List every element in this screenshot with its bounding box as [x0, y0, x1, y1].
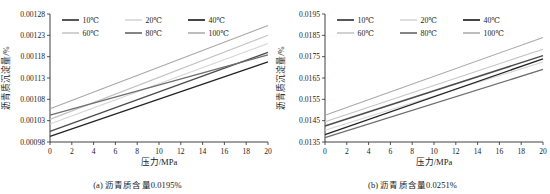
legend-label-40C: 40℃	[209, 16, 226, 25]
y-tick-label: 0.00108	[20, 95, 45, 104]
x-tick-label: 14	[474, 147, 482, 156]
x-tick-label: 0	[323, 147, 327, 156]
y-tick-label: 0.00103	[20, 116, 45, 125]
chart-panel-a: 0.000980.001030.001080.001130.001180.001…	[0, 0, 275, 194]
series-line-40C	[50, 62, 268, 137]
x-tick-label: 14	[199, 147, 207, 156]
y-tick-label: 0.0175	[299, 52, 320, 61]
series-line-60C	[325, 49, 543, 122]
x-tick-label: 2	[345, 147, 349, 156]
y-tick-label: 0.00128	[20, 10, 45, 19]
x-tick-label: 16	[221, 147, 229, 156]
series-line-60C	[50, 35, 268, 119]
chart-plot-b: 0.01350.01450.01550.01650.01750.01850.01…	[275, 0, 550, 168]
chart-panel-b: 0.01350.01450.01550.01650.01750.01850.01…	[275, 0, 550, 194]
y-tick-label: 0.00113	[21, 74, 46, 83]
x-tick-label: 2	[70, 147, 74, 156]
y-axis-title: 沥青质沉淀量/%	[275, 46, 286, 110]
chart-svg: 0.01350.01450.01550.01650.01750.01850.01…	[275, 0, 550, 168]
chart-caption-b: (b) 沥青质含量0.0251%	[275, 178, 550, 190]
series-line-10C	[325, 56, 543, 126]
x-tick-label: 12	[177, 147, 185, 156]
y-tick-label: 0.00123	[20, 31, 45, 40]
x-tick-label: 10	[430, 147, 438, 156]
series-line-40C	[325, 59, 543, 135]
series-line-80C	[50, 55, 268, 115]
series-line-20C	[50, 43, 268, 124]
x-tick-label: 10	[155, 147, 163, 156]
chart-plot-a: 0.000980.001030.001080.001130.001180.001…	[0, 0, 275, 168]
x-tick-label: 4	[92, 147, 96, 156]
y-tick-label: 0.0145	[299, 116, 320, 125]
legend-label-10C: 10℃	[358, 16, 375, 25]
legend-label-80C: 80℃	[146, 29, 163, 38]
legend-label-20C: 20℃	[421, 16, 438, 25]
figure-panel-row: 0.000980.001030.001080.001130.001180.001…	[0, 0, 550, 194]
x-tick-label: 18	[242, 147, 250, 156]
y-tick-label: 0.0135	[299, 138, 320, 147]
chart-svg: 0.000980.001030.001080.001130.001180.001…	[0, 0, 275, 168]
x-tick-label: 6	[114, 147, 118, 156]
x-tick-label: 20	[264, 147, 272, 156]
y-tick-label: 0.0195	[299, 10, 320, 19]
legend-label-100C: 100℃	[484, 29, 505, 38]
x-axis-title: 压力/MPa	[141, 156, 178, 167]
legend-label-10C: 10℃	[83, 16, 100, 25]
x-tick-label: 16	[496, 147, 504, 156]
y-tick-label: 0.00098	[20, 138, 45, 147]
legend-label-20C: 20℃	[146, 16, 163, 25]
x-axis-title: 压力/MPa	[416, 156, 453, 167]
x-tick-label: 12	[452, 147, 460, 156]
legend-label-80C: 80℃	[421, 29, 438, 38]
x-tick-label: 20	[539, 147, 547, 156]
y-tick-label: 0.00118	[21, 52, 46, 61]
series-line-100C	[50, 26, 268, 109]
legend-label-100C: 100℃	[209, 29, 230, 38]
legend-label-60C: 60℃	[358, 29, 375, 38]
x-tick-label: 8	[410, 147, 414, 156]
x-tick-label: 8	[135, 147, 139, 156]
x-tick-label: 0	[48, 147, 52, 156]
legend-label-60C: 60℃	[83, 29, 100, 38]
legend-label-40C: 40℃	[484, 16, 501, 25]
y-tick-label: 0.0185	[299, 31, 320, 40]
y-axis-title: 沥青质沉淀量/%	[0, 46, 11, 110]
chart-caption-a: (a) 沥青质含量0.0195%	[0, 178, 275, 190]
x-tick-label: 18	[517, 147, 525, 156]
y-tick-label: 0.0155	[299, 95, 320, 104]
x-tick-label: 4	[367, 147, 371, 156]
y-tick-label: 0.0165	[299, 74, 320, 83]
x-tick-label: 6	[389, 147, 393, 156]
